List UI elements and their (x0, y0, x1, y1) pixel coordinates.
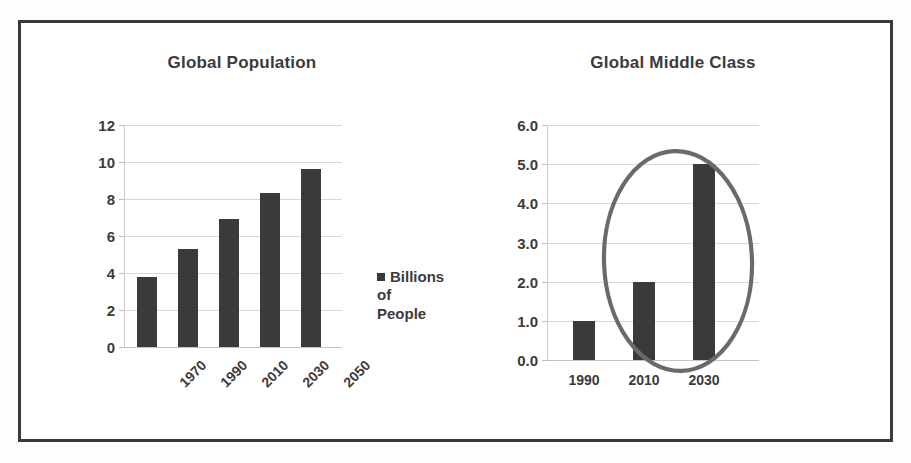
xtick-label-2030: 2030 (299, 357, 332, 390)
ytick-label-10: 10 (98, 154, 115, 171)
xtick-label-2010: 2010 (628, 372, 659, 388)
figure-page: Global Population 12 10 (0, 0, 911, 463)
legend-entry-billions-of-people: Billions (377, 268, 444, 286)
gridline-12 (124, 125, 342, 126)
bar-1970 (137, 277, 157, 347)
legend-line-3: People (377, 305, 444, 323)
xtick-label-2030: 2030 (688, 372, 719, 388)
ytick-label-2-0: 2.0 (517, 273, 538, 290)
legend-line-2: of (377, 286, 444, 304)
ytick-label-12: 12 (98, 117, 115, 134)
bar-2010 (633, 282, 655, 360)
ytick-label-2: 2 (107, 301, 115, 318)
chart-title-global-middle-class: Global Middle Class (463, 53, 883, 73)
figure-border: Global Population 12 10 (18, 20, 893, 442)
xtick-label-2050: 2050 (340, 357, 373, 390)
gridline-6-0 (547, 125, 759, 126)
xtick-label-1970: 1970 (176, 357, 209, 390)
ytick-label-5-0: 5.0 (517, 156, 538, 173)
ytick-label-0-0: 0.0 (517, 352, 538, 369)
gridline-10 (124, 162, 342, 163)
legend-global-population: Billions of People (377, 268, 444, 323)
plot-area-global-middle-class: 6.0 5.0 4.0 3.0 2.0 1.0 0.0 1990 2010 20… (547, 125, 759, 360)
gridline-3-0 (547, 243, 759, 244)
xtick-label-1990: 1990 (568, 372, 599, 388)
gridline-0-0 (547, 360, 759, 361)
ytick-label-6: 6 (107, 228, 115, 245)
bar-1990 (573, 321, 595, 360)
gridline-4-0 (547, 203, 759, 204)
plot-area-global-population: 12 10 8 6 4 2 0 1970 1990 2010 2030 2050 (124, 125, 342, 347)
ytick-label-3-0: 3.0 (517, 234, 538, 251)
gridline-0 (124, 347, 342, 348)
ytick-label-0: 0 (107, 339, 115, 356)
ytick-label-8: 8 (107, 190, 115, 207)
chart-global-middle-class: Global Middle Class 6.0 5.0 4. (471, 23, 891, 439)
bar-1990 (178, 249, 198, 347)
ytick-label-4: 4 (107, 265, 115, 282)
bar-2010 (219, 219, 239, 347)
gridline-5-0 (547, 164, 759, 165)
xtick-label-2010: 2010 (258, 357, 291, 390)
ytick-label-6-0: 6.0 (517, 117, 538, 134)
bar-2050 (301, 169, 321, 347)
legend-line-1: Billions (390, 268, 444, 286)
ytick-label-1-0: 1.0 (517, 312, 538, 329)
bar-2030 (260, 193, 280, 347)
ytick-label-4-0: 4.0 (517, 195, 538, 212)
xtick-label-1990: 1990 (217, 357, 250, 390)
legend-swatch-icon (377, 273, 385, 281)
chart-global-population: Global Population 12 10 (39, 23, 469, 439)
bar-2030 (693, 164, 715, 360)
chart-title-global-population: Global Population (27, 53, 457, 73)
